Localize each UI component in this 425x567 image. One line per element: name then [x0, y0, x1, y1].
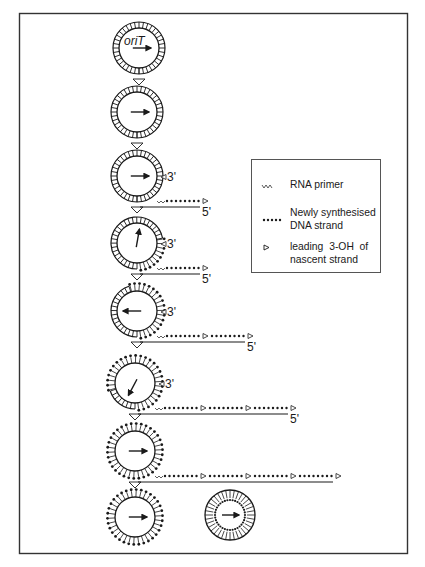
strand-4: 5' — [140, 266, 211, 287]
direction-arrow-icon — [136, 229, 139, 247]
strand-5: 5' — [140, 334, 256, 355]
strand-3: 5' — [140, 199, 211, 220]
five-prime-label: 5' — [202, 205, 211, 219]
three-prime-label: 3' — [165, 377, 174, 391]
step-down-arrow-icon — [131, 143, 143, 149]
legend-3oh-label-1: leading 3-OH of — [290, 240, 368, 253]
strand-6: 5' — [138, 406, 299, 427]
direction-arrow-icon — [128, 379, 137, 395]
five-prime-label: 5' — [202, 272, 211, 286]
step-down-arrow-icon — [129, 414, 141, 420]
three-prime-label: 3' — [167, 305, 176, 319]
step-down-arrow-icon — [131, 207, 143, 213]
legend-3oh-label-2: nascent strand — [290, 253, 358, 266]
step-down-arrow-icon — [133, 79, 145, 85]
step-circle-1: oriT — [113, 22, 165, 74]
step-circle-9 — [205, 490, 255, 540]
step-circle-6: 3' — [106, 354, 174, 412]
step-circle-2 — [111, 86, 163, 138]
three-prime-label: 3' — [167, 170, 176, 184]
three-prime-label: 3' — [167, 237, 176, 251]
legend-rna-primer-label: RNA primer — [290, 178, 343, 191]
legend-new-strand-label-2: DNA strand — [290, 219, 343, 232]
step-down-arrow-icon — [131, 342, 143, 348]
legend-new-strand-label-1: Newly synthesised — [290, 206, 376, 219]
five-prime-label: 5' — [247, 340, 256, 354]
figure-canvas: oriT3'3'3'3' 5'5'5'5' RNA primer Newly s… — [0, 0, 425, 567]
step-down-arrow-icon — [129, 482, 141, 488]
step-circle-5: 3' — [111, 282, 176, 339]
replication-diagram: oriT3'3'3'3' 5'5'5'5' — [0, 0, 425, 567]
strand-7 — [138, 474, 341, 483]
step-circle-4: 3' — [111, 217, 176, 272]
oriT-label: oriT — [124, 34, 146, 48]
step-down-arrow-icon — [131, 274, 143, 280]
step-circle-3: 3' — [111, 150, 176, 202]
step-circle-7 — [106, 422, 164, 480]
figure-frame — [20, 14, 408, 554]
five-prime-label: 5' — [290, 412, 299, 426]
circle-steps: oriT3'3'3'3' — [106, 22, 255, 546]
step-circle-8 — [106, 488, 164, 546]
